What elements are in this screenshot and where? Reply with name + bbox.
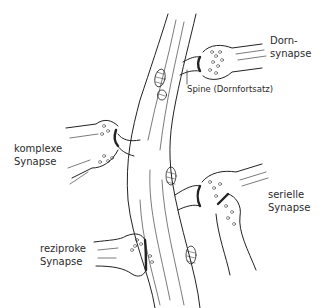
mitochondria <box>153 68 196 264</box>
synapse-diagram: Dorn- synapse Spine (Dornfortsatz) kompl… <box>0 0 320 308</box>
label-komplexe-synapse: komplexe Synapse <box>14 142 62 168</box>
label-reziproke-synapse: reziproke Synapse <box>40 242 86 268</box>
dendrite-trunk <box>127 14 200 308</box>
serial-synapse-drawing <box>175 164 268 275</box>
reciprocal-synapse-drawing <box>94 234 154 276</box>
label-serielle-synapse: serielle Synapse <box>268 188 310 214</box>
label-dorn-synapse: Dorn- synapse <box>270 34 311 60</box>
label-spine: Spine (Dornfortsatz) <box>187 83 273 96</box>
spine-synapse-drawing <box>180 44 266 84</box>
